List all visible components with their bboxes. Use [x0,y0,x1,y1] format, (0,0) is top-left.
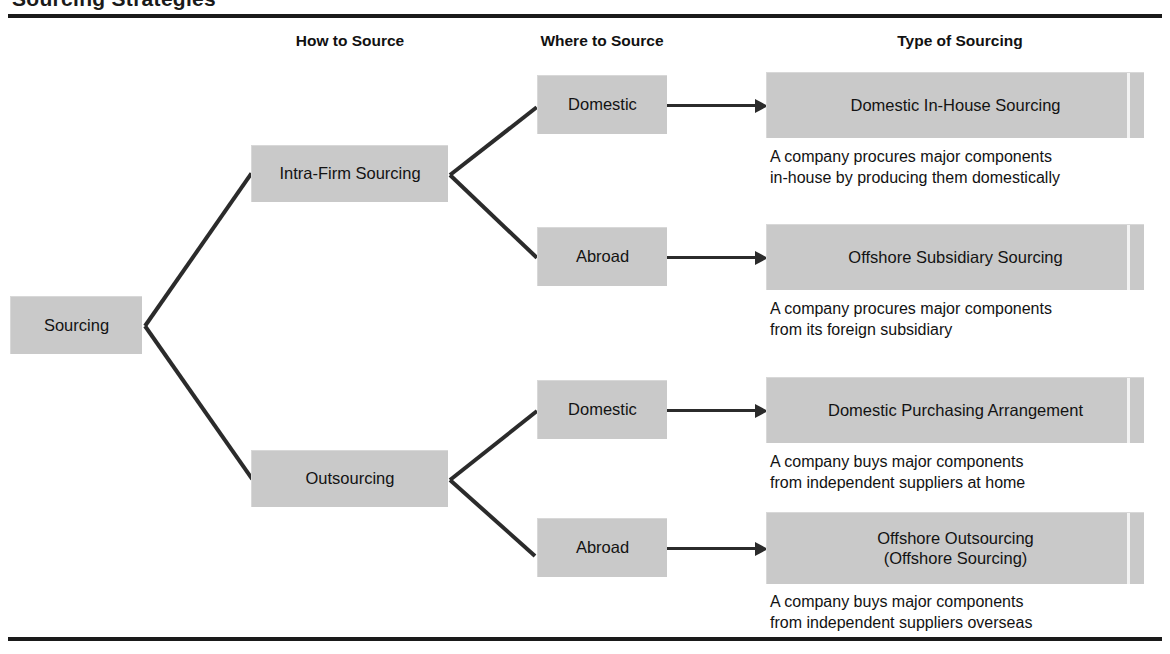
node-abroad-outsourcing-label: Abroad [570,538,635,557]
node-sourcing[interactable]: Sourcing [10,296,142,354]
description-offshore-outsourcing: A company buys major components from ind… [770,592,1160,634]
description-offshore-subsidiary-sourcing: A company procures major components from… [770,299,1160,341]
arrow-line-1 [667,104,759,107]
node-intra-firm-sourcing[interactable]: Intra-Firm Sourcing [251,145,448,202]
description-domestic-purchasing-arrangement: A company buys major components from ind… [770,452,1160,494]
node-domestic-intra-firm-label: Domestic [562,95,643,114]
node-offshore-outsourcing[interactable]: Offshore Outsourcing (Offshore Sourcing) [766,512,1144,584]
column-heading-how-to-source: How to Source [250,32,450,50]
node-offshore-outsourcing-label: Offshore Outsourcing (Offshore Sourcing) [871,529,1040,568]
connector-outsourcing-to-domestic [449,409,538,481]
node-offshore-subsidiary-sourcing-label: Offshore Subsidiary Sourcing [842,248,1068,267]
column-heading-where-to-source: Where to Source [512,32,692,50]
connector-outsourcing-to-abroad [449,479,537,558]
top-rule [8,14,1162,18]
arrow-line-4 [667,547,759,550]
figure-canvas: Sourcing Strategies How to Source Where … [0,0,1170,654]
node-domestic-outsourcing-label: Domestic [562,400,643,419]
node-abroad-intra-firm-label: Abroad [570,247,635,266]
node-domestic-in-house-sourcing-label: Domestic In-House Sourcing [844,96,1066,115]
node-sourcing-label: Sourcing [38,316,115,335]
connector-sourcing-to-outsourcing [143,325,254,480]
node-intra-firm-sourcing-label: Intra-Firm Sourcing [273,164,426,183]
node-domestic-purchasing-arrangement-label: Domestic Purchasing Arrangement [822,401,1089,420]
node-domestic-intra-firm[interactable]: Domestic [537,75,667,134]
node-outsourcing[interactable]: Outsourcing [251,450,448,507]
description-domestic-in-house-sourcing: A company procures major components in-h… [770,147,1160,189]
node-domestic-outsourcing[interactable]: Domestic [537,380,667,439]
connector-intrafirm-to-abroad [449,174,539,260]
arrow-line-2 [667,256,759,259]
node-domestic-purchasing-arrangement[interactable]: Domestic Purchasing Arrangement [766,377,1144,443]
node-outsourcing-label: Outsourcing [300,469,401,488]
arrow-line-3 [667,409,759,412]
column-heading-type-of-sourcing: Type of Sourcing [760,32,1160,50]
bottom-rule [8,637,1162,641]
connector-sourcing-to-intra-firm [143,172,253,327]
connector-intrafirm-to-domestic [449,106,538,177]
node-abroad-intra-firm[interactable]: Abroad [537,227,667,286]
node-abroad-outsourcing[interactable]: Abroad [537,518,667,577]
node-domestic-in-house-sourcing[interactable]: Domestic In-House Sourcing [766,72,1144,138]
node-offshore-subsidiary-sourcing[interactable]: Offshore Subsidiary Sourcing [766,224,1144,290]
figure-title-partial: Sourcing Strategies [12,0,312,11]
